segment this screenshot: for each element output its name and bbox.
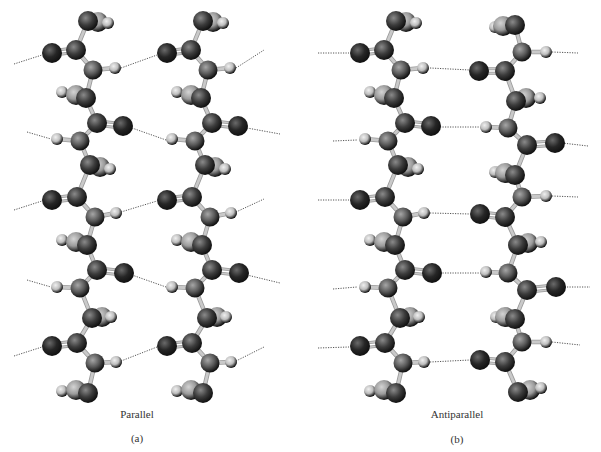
hydrogen-atom xyxy=(412,163,424,175)
hydrogen-bond-dashed-line xyxy=(430,360,470,362)
nitrogen-atom xyxy=(394,208,413,227)
carbon-atom xyxy=(374,40,394,60)
carbon-atom xyxy=(193,11,213,31)
hydrogen-atom xyxy=(540,190,552,202)
nitrogen-atom xyxy=(71,279,90,298)
panel-b-tag: (b) xyxy=(451,433,464,445)
oxygen-atom xyxy=(114,263,134,283)
hydrogen-atom xyxy=(171,234,183,246)
carbon-atom xyxy=(386,383,406,403)
hydrogen-bond-dashed-line xyxy=(14,55,42,64)
carbon-atom xyxy=(193,383,213,403)
hydrogen-atom xyxy=(417,62,429,74)
hydrogen-bond-dashed-line xyxy=(27,280,51,287)
carbon-atom xyxy=(390,308,410,328)
hydrogen-bond-dashed-line xyxy=(430,68,470,70)
hydrogen-bond-dashed-line xyxy=(121,201,157,212)
hydrogen-atom xyxy=(225,356,237,368)
hydrogen-atom xyxy=(418,207,430,219)
oxygen-atom xyxy=(157,190,177,210)
nitrogen-atom xyxy=(186,132,205,151)
carbon-atom xyxy=(67,187,87,207)
hydrogen-bond-dashed-line xyxy=(14,201,42,210)
hydrogen-bond-dashed-line xyxy=(562,143,588,146)
molecular-diagram xyxy=(0,0,601,452)
hydrogen-atom xyxy=(166,133,178,145)
carbon-atom xyxy=(395,260,415,280)
hydrogen-atom xyxy=(480,121,492,133)
carbon-atom xyxy=(517,135,537,155)
oxygen-atom xyxy=(469,61,489,81)
hydrogen-atom xyxy=(217,17,229,29)
hydrogen-atom xyxy=(56,234,68,246)
hydrogen-bond-dashed-line xyxy=(552,342,580,345)
nitrogen-atom xyxy=(379,132,398,151)
carbon-atom xyxy=(386,11,406,31)
nitrogen-atom xyxy=(86,208,105,227)
panel-a-title: Parallel xyxy=(120,408,154,420)
hydrogen-bond-dashed-line xyxy=(27,132,51,139)
carbon-atom xyxy=(495,207,515,227)
hydrogen-atom xyxy=(105,311,117,323)
hydrogen-atom xyxy=(534,92,546,104)
hydrogen-bond-dashed-line xyxy=(247,275,280,283)
hydrogen-bond-dashed-line xyxy=(132,128,166,140)
hydrogen-atom xyxy=(413,311,425,323)
carbon-atom xyxy=(181,40,201,60)
polypeptide-strand-4 xyxy=(469,15,566,402)
carbon-atom xyxy=(202,260,222,280)
hydrogen-atom xyxy=(104,163,116,175)
nitrogen-atom xyxy=(379,279,398,298)
nitrogen-atom xyxy=(84,61,103,80)
hydrogen-atom xyxy=(535,382,547,394)
nitrogen-atom xyxy=(499,264,518,283)
carbon-atom xyxy=(80,155,100,175)
hydrogen-atom xyxy=(225,207,237,219)
polypeptide-strand-3 xyxy=(350,11,442,403)
oxygen-atom xyxy=(157,43,177,63)
carbon-atom xyxy=(76,88,96,108)
nitrogen-atom xyxy=(513,43,532,62)
nitrogen-atom xyxy=(513,333,532,352)
hydrogen-atom xyxy=(110,207,122,219)
hydrogen-atom xyxy=(535,236,547,248)
carbon-atom xyxy=(195,155,215,175)
carbon-atom xyxy=(202,113,222,133)
oxygen-atom xyxy=(113,116,133,136)
carbon-atom xyxy=(505,309,525,329)
hydrogen-atom xyxy=(109,62,121,74)
oxygen-atom xyxy=(42,336,62,356)
oxygen-atom xyxy=(546,277,566,297)
panel-b-title: Antiparallel xyxy=(431,408,484,420)
oxygen-atom xyxy=(42,43,62,63)
carbon-atom xyxy=(495,61,515,81)
nitrogen-atom xyxy=(201,354,220,373)
carbon-atom xyxy=(78,383,98,403)
hydrogen-bond-dashed-line xyxy=(236,199,264,212)
carbon-atom xyxy=(197,308,217,328)
carbon-atom xyxy=(388,155,408,175)
oxygen-atom xyxy=(228,116,248,136)
hydrogen-atom xyxy=(166,281,178,293)
carbon-atom xyxy=(77,235,97,255)
carbon-atom xyxy=(182,187,202,207)
hydrogen-atom xyxy=(359,281,371,293)
oxygen-atom xyxy=(350,336,370,356)
nitrogen-atom xyxy=(199,61,218,80)
hydrogen-bond-dashed-line xyxy=(552,52,578,53)
carbon-atom xyxy=(375,187,395,207)
carbon-atom xyxy=(182,333,202,353)
hydrogen-atom xyxy=(364,234,376,246)
hydrogen-bond-dashed-line xyxy=(333,140,357,141)
hydrogen-bond-dashed-line xyxy=(552,196,578,197)
nitrogen-atom xyxy=(394,354,413,373)
carbon-atom xyxy=(517,280,537,300)
hydrogen-bond-dashed-line xyxy=(14,347,42,356)
carbon-atom xyxy=(191,88,211,108)
hydrogen-bond-dashed-line xyxy=(333,287,357,289)
hydrogen-bond-dashed-line xyxy=(121,55,157,68)
carbon-atom xyxy=(78,11,98,31)
carbon-atom xyxy=(506,91,526,111)
nitrogen-atom xyxy=(201,208,220,227)
carbon-atom xyxy=(505,15,525,35)
